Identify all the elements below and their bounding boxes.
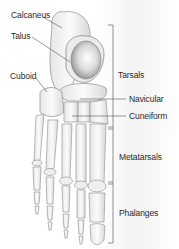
label-tarsals: Tarsals [118, 71, 144, 80]
cuboid-bone [40, 88, 64, 117]
label-metatarsals: Metatarsals [119, 153, 162, 162]
label-cuboid: Cuboid [10, 72, 36, 81]
label-navicular: Navicular [129, 95, 164, 104]
talus-bone [66, 36, 104, 83]
label-calcaneus: Calcaneus [11, 11, 50, 20]
label-cuneiform: Cuneiform [129, 112, 167, 121]
group-bracket [108, 25, 113, 243]
label-phalanges: Phalanges [119, 209, 158, 218]
navicular-bone [60, 84, 106, 102]
cuboid-leader-line [36, 78, 47, 92]
foot-bones-diagram: Calcaneus Talus Cuboid Navicular Cuneifo… [0, 0, 179, 249]
label-talus: Talus [11, 32, 30, 41]
cuneiform-bones [64, 100, 108, 124]
